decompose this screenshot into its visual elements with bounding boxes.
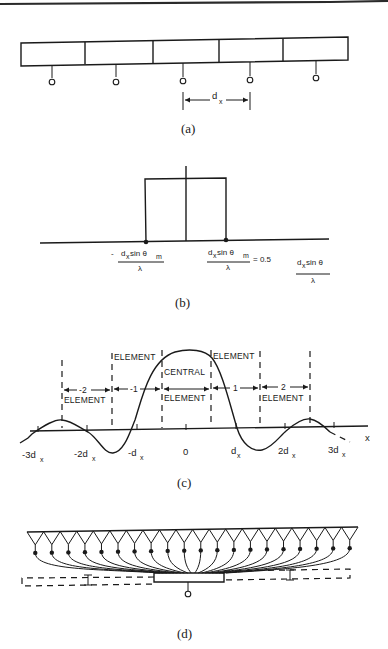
- panel-c-element-pattern: x -2 -1: [20, 350, 370, 463]
- svg-text:-d: -d: [128, 447, 136, 458]
- left-edge-dot-icon: [144, 240, 149, 245]
- caption-c: (c): [177, 475, 191, 490]
- label-central: CENTRAL: [164, 367, 205, 377]
- horn-icon: [176, 530, 193, 550]
- svg-text:λ: λ: [311, 276, 315, 285]
- svg-text:sin θ: sin θ: [306, 258, 323, 267]
- svg-text:= 0.5: = 0.5: [253, 255, 272, 264]
- figure-canvas: d x (a) - d x sin θ m λ d x sin θ m λ: [0, 0, 388, 649]
- right-edge-label: d x sin θ m λ = 0.5: [207, 248, 272, 272]
- svg-text:-3d: -3d: [22, 449, 36, 460]
- svg-text:sin θ: sin θ: [217, 248, 234, 257]
- subarray-bars: [22, 569, 350, 586]
- svg-text:2d: 2d: [278, 445, 289, 456]
- horn-icon: [275, 528, 292, 548]
- svg-text:2: 2: [281, 382, 286, 392]
- label-element-m1-top: ELEMENT: [114, 352, 156, 362]
- panel-a-array-elements: d x: [21, 37, 348, 110]
- spacing-dimension: d x: [183, 90, 250, 110]
- horn-icon: [292, 528, 309, 548]
- horn-icon: [242, 529, 259, 549]
- label-element-central: ELEMENT: [164, 393, 206, 403]
- svg-text:1: 1: [233, 383, 238, 393]
- svg-text:d: d: [231, 445, 236, 456]
- right-edge-dot-icon: [224, 238, 229, 243]
- feed-port-icon: [247, 77, 253, 83]
- horn-icon: [27, 532, 44, 552]
- svg-text:-: -: [111, 249, 114, 258]
- baseline-axis: [40, 239, 329, 243]
- horn-icon: [209, 529, 226, 549]
- array-outline: [21, 37, 348, 66]
- horn-icon: [226, 529, 243, 549]
- svg-text:m: m: [243, 252, 249, 259]
- x-axis-var: x: [365, 432, 370, 443]
- horn-icon: [193, 529, 210, 549]
- feed-port-icon: [180, 78, 186, 84]
- region-labels: ELEMENT ELEMENT CENTRAL ELEMENT ELEMENT …: [64, 351, 304, 405]
- svg-text:3d: 3d: [328, 444, 339, 455]
- horn-elements: [27, 527, 358, 555]
- central-subarray: [154, 573, 224, 582]
- horn-icon: [325, 527, 342, 547]
- caption-b: (b): [175, 295, 190, 310]
- svg-text:-2d: -2d: [74, 448, 88, 459]
- horn-icon: [60, 531, 77, 551]
- svg-text:x: x: [237, 452, 241, 459]
- horn-icon: [93, 531, 110, 551]
- svg-text:-2: -2: [79, 385, 87, 395]
- horn-icon: [126, 530, 143, 550]
- feed-port-icon: [313, 75, 319, 81]
- label-element-p2: ELEMENT: [262, 393, 304, 403]
- caption-a: (a): [181, 121, 195, 136]
- svg-text:-1: -1: [130, 384, 138, 394]
- svg-text:d: d: [297, 258, 301, 267]
- svg-text:x: x: [40, 456, 44, 463]
- svg-text:λ: λ: [138, 264, 142, 273]
- svg-text:0: 0: [183, 446, 188, 457]
- left-edge-label: - d x sin θ m λ: [111, 249, 164, 273]
- horn-icon: [341, 527, 358, 547]
- axis-label: d x sin θ λ: [296, 258, 330, 285]
- horn-icon: [159, 530, 176, 550]
- feed-line: [205, 550, 250, 573]
- horn-icon: [77, 531, 94, 551]
- label-element-m2: ELEMENT: [64, 395, 106, 405]
- svg-text:sin θ: sin θ: [130, 249, 147, 258]
- svg-text:x: x: [342, 451, 346, 458]
- horn-icon: [44, 532, 61, 552]
- horn-icon: [110, 531, 127, 551]
- label-element-p1-top: ELEMENT: [213, 351, 255, 361]
- svg-text:d: d: [121, 249, 125, 258]
- svg-text:m: m: [156, 253, 162, 260]
- panel-d-horn-feed-array: [22, 527, 358, 597]
- feed-line: [195, 550, 201, 573]
- horn-icon: [259, 528, 276, 548]
- panel-b-pattern-space: - d x sin θ m λ d x sin θ m λ = 0.5 d x …: [40, 166, 330, 285]
- feed-port-icon: [185, 591, 191, 597]
- caption-d: (d): [177, 626, 192, 641]
- spacing-subscript: x: [219, 98, 223, 105]
- spacing-label: d: [212, 90, 217, 101]
- feed-port-icon: [49, 79, 55, 85]
- svg-text:x: x: [92, 455, 96, 462]
- tick-labels: -3d x -2d x -d x 0 d x 2d x 3d x: [22, 444, 346, 463]
- feed-line: [184, 551, 191, 573]
- svg-text:λ: λ: [226, 263, 230, 272]
- horn-icon: [143, 530, 160, 550]
- horn-icon: [308, 528, 325, 548]
- pattern-curve-tail: [330, 432, 350, 442]
- svg-text:x: x: [292, 452, 296, 459]
- svg-text:d: d: [208, 248, 212, 257]
- feed-port-icon: [113, 79, 119, 85]
- svg-text:x: x: [140, 454, 144, 461]
- page-top-rule: [0, 1, 388, 4]
